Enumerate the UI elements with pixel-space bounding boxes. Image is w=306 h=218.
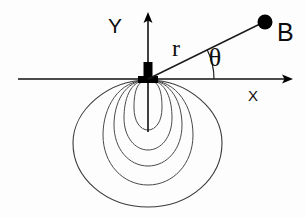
point-b-marker: [258, 15, 273, 30]
y-axis-label: Y: [108, 14, 122, 37]
origin-marker-icon: [138, 76, 158, 83]
angle-label: θ: [209, 43, 221, 72]
point-b-label: B: [277, 18, 294, 46]
radius-label: r: [172, 35, 180, 61]
radius-ray: [148, 23, 262, 79]
figure-canvas: Y X r θ B: [0, 0, 306, 218]
x-axis-label: X: [248, 87, 258, 104]
dipole-field-figure: Y X r θ B: [0, 0, 306, 218]
